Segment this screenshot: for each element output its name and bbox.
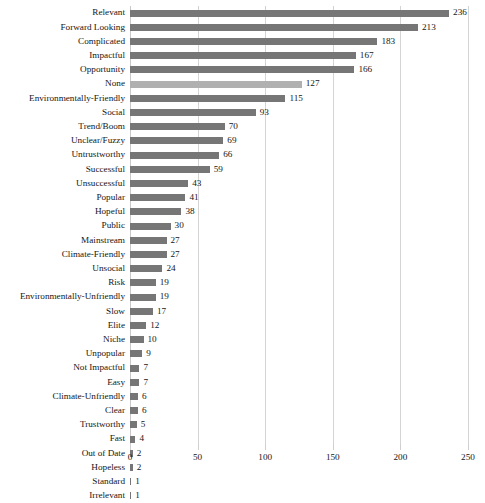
category-label: Fast <box>110 434 125 443</box>
bar <box>130 81 302 88</box>
category-label: Trustworthy <box>80 420 125 429</box>
category-label: Untrustworthy <box>71 150 125 159</box>
bar-value-label: 19 <box>160 292 169 301</box>
category-label: Niche <box>103 335 125 344</box>
bar-value-label: 127 <box>306 79 320 88</box>
x-tick <box>265 444 266 450</box>
category-label: Unsocial <box>92 264 125 273</box>
bar-value-label: 70 <box>229 122 238 131</box>
bar <box>130 294 156 301</box>
bar-row: Climate-Unfriendly6 <box>130 389 468 403</box>
bar-row: Popular41 <box>130 191 468 205</box>
category-label: Slow <box>106 307 125 316</box>
bar-row: Complicated183 <box>130 34 468 48</box>
bar <box>130 95 285 102</box>
bar-row: Public30 <box>130 219 468 233</box>
bar-row: Unpopular9 <box>130 347 468 361</box>
bar-value-label: 38 <box>185 207 194 216</box>
bar <box>130 336 144 343</box>
bar <box>130 492 131 499</box>
category-label: Trend/Boom <box>78 122 125 131</box>
bar <box>130 137 223 144</box>
bar-row: Forward Looking213 <box>130 20 468 34</box>
x-tick <box>333 444 334 450</box>
category-label: Out of Date <box>82 449 125 458</box>
bar <box>130 237 167 244</box>
bar <box>130 393 138 400</box>
category-label: Hopeful <box>95 207 125 216</box>
bar-row: Untrustworthy66 <box>130 148 468 162</box>
bar <box>130 66 354 73</box>
x-tick-label: 150 <box>326 453 340 462</box>
bar <box>130 350 142 357</box>
bar-row: Environmentally-Friendly115 <box>130 91 468 105</box>
category-label: Risk <box>108 278 125 287</box>
category-label: Unpopular <box>86 349 125 358</box>
category-label: Climate-Friendly <box>62 250 125 259</box>
bar-row: Social93 <box>130 105 468 119</box>
bar-row: Trend/Boom70 <box>130 120 468 134</box>
bar-row: Successful59 <box>130 162 468 176</box>
bar-value-label: 5 <box>141 420 146 429</box>
bar-value-label: 236 <box>453 8 467 17</box>
x-tick-label: 250 <box>461 453 475 462</box>
bar-value-label: 59 <box>214 165 223 174</box>
x-tick <box>468 444 469 450</box>
bar <box>130 322 146 329</box>
bar-row: Relevant236 <box>130 6 468 20</box>
bar-row: Environmentally-Unfriendly19 <box>130 290 468 304</box>
category-label: Elite <box>108 321 125 330</box>
bar-row: Unsuccessful43 <box>130 176 468 190</box>
x-tick-label: 200 <box>394 453 408 462</box>
bar-rows: Relevant236Forward Looking213Complicated… <box>130 6 468 444</box>
bar-value-label: 66 <box>223 150 232 159</box>
x-axis: 050100150200250 <box>130 444 468 484</box>
category-label: Unclear/Fuzzy <box>71 136 125 145</box>
category-label: Not Impactful <box>73 363 125 372</box>
plot-area: Relevant236Forward Looking213Complicated… <box>130 6 468 444</box>
bar-value-label: 213 <box>422 23 436 32</box>
bar-row: Irrelevant1 <box>130 489 468 503</box>
category-label: Environmentally-Unfriendly <box>20 292 125 301</box>
bar-row: Slow17 <box>130 304 468 318</box>
x-tick <box>130 444 131 450</box>
x-tick <box>198 444 199 450</box>
bar <box>130 421 137 428</box>
bar-value-label: 7 <box>143 378 148 387</box>
category-label: Easy <box>107 378 125 387</box>
bar <box>130 251 167 258</box>
bar-value-label: 69 <box>227 136 236 145</box>
bar <box>130 436 135 443</box>
bar <box>130 180 188 187</box>
x-tick <box>400 444 401 450</box>
bar <box>130 223 171 230</box>
bar <box>130 208 181 215</box>
category-label: Standard <box>92 477 125 486</box>
category-label: Unsuccessful <box>76 179 125 188</box>
x-tick-label: 100 <box>258 453 272 462</box>
bar-row: Not Impactful7 <box>130 361 468 375</box>
bar-value-label: 27 <box>171 250 180 259</box>
bar-value-label: 93 <box>260 108 269 117</box>
bar <box>130 52 356 59</box>
category-label: Irrelevant <box>89 491 125 500</box>
bar-value-label: 7 <box>143 363 148 372</box>
bar <box>130 152 219 159</box>
category-label: Forward Looking <box>60 23 125 32</box>
bar-value-label: 41 <box>189 193 198 202</box>
category-label: Public <box>102 221 125 230</box>
bar-row: Unsocial24 <box>130 262 468 276</box>
category-label: Hopeless <box>91 463 125 472</box>
bar <box>130 279 156 286</box>
bar <box>130 109 256 116</box>
category-label: Opportunity <box>80 65 125 74</box>
bar-row: Risk19 <box>130 276 468 290</box>
bar-row: Niche10 <box>130 333 468 347</box>
bar-value-label: 4 <box>139 434 144 443</box>
category-label: None <box>105 79 125 88</box>
bar-value-label: 183 <box>381 37 395 46</box>
bar <box>130 123 225 130</box>
bar-value-label: 166 <box>358 65 372 74</box>
bar-row: Impactful167 <box>130 49 468 63</box>
x-tick-label: 0 <box>128 453 133 462</box>
